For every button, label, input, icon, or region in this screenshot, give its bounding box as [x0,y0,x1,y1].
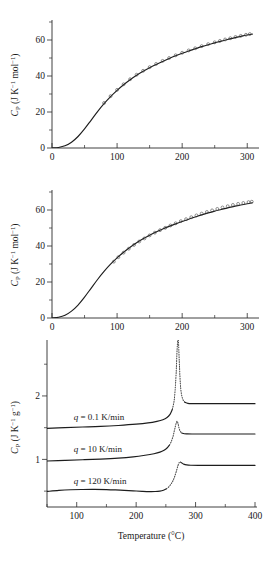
x-tick-label: 300 [240,152,255,162]
panel-top-plot: 01002003000204060CP (J K−1 mol−1) [0,0,265,170]
x-tick-label: 0 [50,152,55,162]
data-point-marker [221,206,224,209]
y-tick-label: 40 [36,241,46,251]
curve-transition-peak [172,340,184,409]
x-tick-label: 300 [240,322,255,332]
y-axis-title: CP (J K−1 mol−1) [9,224,21,287]
x-tick-label: 100 [110,322,125,332]
panel-middle-heat-capacity: 01002003000204060CP (J K−1 mol−1) [0,170,265,340]
y-axis-title: CP (J K−1 g−1) [9,401,21,454]
series-annotation: q = 10 K/min [74,444,123,454]
y-tick-label: 20 [36,107,46,117]
curve-transition-peak [169,421,181,445]
x-tick-label: 100 [70,511,85,521]
y-tick-label: 60 [36,205,46,215]
figure-container: 01002003000204060CP (J K−1 mol−1) 010020… [0,0,265,562]
panel-middle-plot: 01002003000204060CP (J K−1 mol−1) [0,170,265,340]
y-tick-label: 1 [35,455,40,465]
x-tick-label: 200 [129,511,144,521]
panel-bottom-plot: 10020030040012CP (J K−1 g−1)Temperature … [0,340,265,562]
data-point-marker [226,205,229,208]
data-point-marker [231,204,234,207]
y-tick-label: 0 [40,143,45,153]
x-tick-label: 100 [110,152,125,162]
y-tick-label: 2 [35,391,40,401]
y-tick-label: 20 [36,277,46,287]
x-axis-title: Temperature (°C) [118,531,185,542]
y-tick-label: 60 [36,35,46,45]
curve-baseline-after [185,402,255,403]
series-annotation: q = 0.1 K/min [74,412,125,422]
curve-baseline-after [182,433,255,434]
curve-fit [52,34,252,148]
curve-baseline-before [47,489,166,492]
x-tick-label: 300 [188,511,203,521]
panel-top-heat-capacity: 01002003000204060CP (J K−1 mol−1) [0,0,265,170]
curve-baseline-after [180,462,255,465]
curve-transition-peak [166,462,179,488]
panel-bottom-dsc-scans: 10020030040012CP (J K−1 g−1)Temperature … [0,340,265,562]
x-tick-label: 0 [50,322,55,332]
y-axis-title: CP (J K−1 mol−1) [9,54,21,117]
data-point-marker [237,202,240,205]
x-tick-label: 200 [175,322,190,332]
series-annotation: q = 120 K/min [74,476,127,486]
y-tick-label: 40 [36,71,46,81]
y-tick-label: 0 [40,313,45,323]
x-tick-label: 200 [175,152,190,162]
curve-fit [52,203,252,318]
x-tick-label: 400 [248,511,263,521]
